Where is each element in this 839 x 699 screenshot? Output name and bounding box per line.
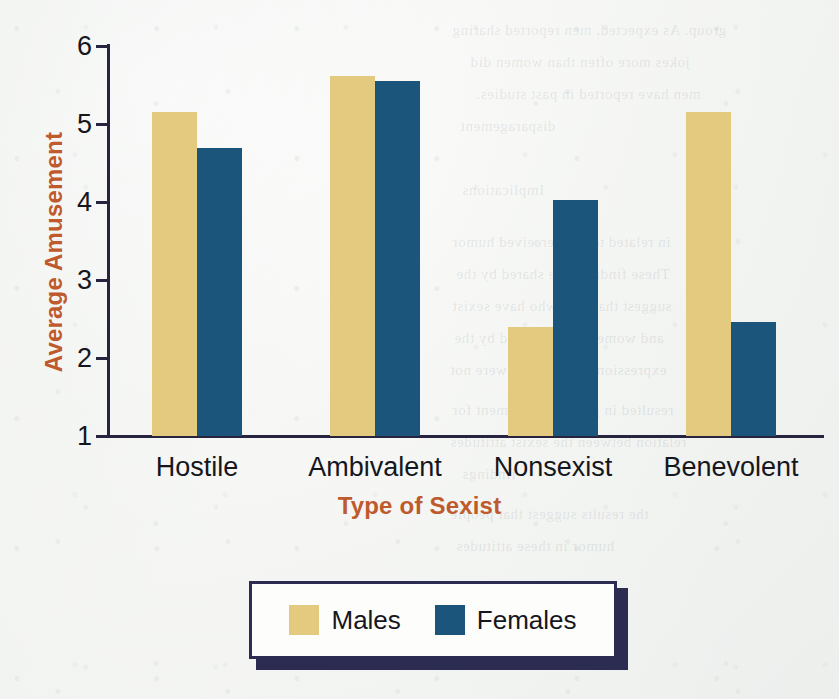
bar-benevolent-females xyxy=(731,322,776,436)
bar-nonsexist-males xyxy=(508,327,553,436)
plot-area xyxy=(108,46,820,436)
y-axis-tick-label: 2 xyxy=(56,343,92,374)
x-axis-title: Type of Sexist xyxy=(0,492,839,520)
y-axis-tick-label: 4 xyxy=(56,187,92,218)
legend-label: Males xyxy=(331,605,400,636)
x-axis-tick-label-ambivalent: Ambivalent xyxy=(308,452,442,483)
legend-swatch-females-icon xyxy=(435,605,465,635)
legend-item-females: Females xyxy=(435,605,577,636)
legend-item-males: Males xyxy=(289,605,400,636)
x-axis-tick-label-nonsexist: Nonsexist xyxy=(494,452,613,483)
y-axis-tick-label: 5 xyxy=(56,109,92,140)
bar-benevolent-males xyxy=(686,112,731,436)
scanned-page: group. As expected, men reported sharing… xyxy=(0,0,839,699)
bar-hostile-females xyxy=(197,148,242,436)
y-axis-tick-label: 1 xyxy=(56,421,92,452)
bar-ambivalent-males xyxy=(330,76,375,436)
x-axis-tick-label-benevolent: Benevolent xyxy=(663,452,798,483)
bar-ambivalent-females xyxy=(375,81,420,436)
y-axis-tick-label: 6 xyxy=(56,31,92,62)
y-axis-tick-label: 3 xyxy=(56,265,92,296)
legend-swatch-males-icon xyxy=(289,605,319,635)
bar-chart: Average Amusement 123456 HostileAmbivale… xyxy=(0,0,839,699)
chart-legend: MalesFemales xyxy=(249,581,617,659)
legend-label: Females xyxy=(477,605,577,636)
bar-hostile-males xyxy=(152,112,197,436)
x-axis-tick-label-hostile: Hostile xyxy=(156,452,239,483)
y-axis-tick-labels: 123456 xyxy=(16,0,92,699)
bar-nonsexist-females xyxy=(553,200,598,436)
